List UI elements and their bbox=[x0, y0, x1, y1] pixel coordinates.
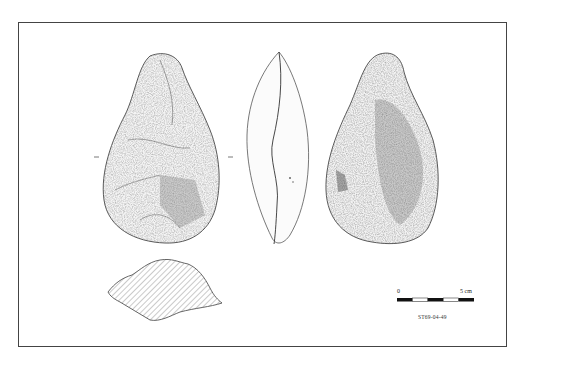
handaxe-lateral-view bbox=[247, 52, 309, 244]
scale-start-label: 0 bbox=[397, 288, 400, 294]
specimen-id: ST69-04-49 bbox=[418, 314, 447, 320]
artifact-drawing bbox=[0, 0, 564, 365]
scale-end-label: 5 cm bbox=[460, 288, 472, 294]
scale-bar bbox=[397, 298, 474, 302]
handaxe-cross-section bbox=[108, 259, 222, 320]
handaxe-dorsal-view bbox=[103, 54, 219, 243]
handaxe-ventral-view bbox=[326, 53, 438, 244]
